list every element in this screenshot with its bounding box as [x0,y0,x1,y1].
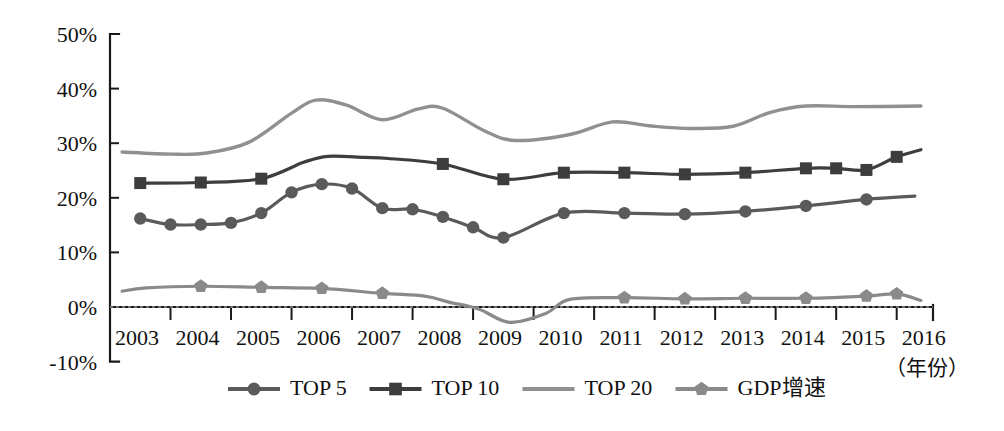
data-point-marker [346,182,358,194]
data-point-marker [406,203,418,215]
data-point-marker [618,167,630,179]
x-tick-label: 2016 [902,325,946,350]
series-top-10 [134,150,921,189]
data-point-marker [618,291,631,304]
x-tick-label: 2007 [357,325,401,350]
y-tick-label: 0% [68,295,97,320]
x-tick-label: 2011 [600,325,643,350]
legend-item-gdp增速[interactable]: GDP增速 [676,375,826,400]
data-point-marker [860,289,873,302]
legend-item-top-20[interactable]: TOP 20 [523,375,653,400]
y-tick-label: 10% [57,240,97,265]
data-point-marker [467,221,479,233]
data-point-marker [891,151,903,163]
data-point-marker [679,168,691,180]
data-point-marker [389,383,402,396]
series-markers [194,279,903,304]
data-point-marker [255,280,268,293]
x-tick-label: 2013 [720,325,764,350]
data-point-marker [739,167,751,179]
x-tick-label: 2014 [781,325,825,350]
series-top-5 [134,178,915,244]
data-point-marker [830,162,842,174]
legend-label: TOP 5 [290,375,347,400]
data-point-marker [437,158,449,170]
series-plot-area [122,100,921,323]
y-tick-label: 40% [57,77,97,102]
legend-item-top-5[interactable]: TOP 5 [228,375,347,400]
y-axis-tick-labels: -10%0%10%20%30%40%50% [49,22,97,375]
data-point-marker [225,217,237,229]
legend-item-top-10[interactable]: TOP 10 [370,375,500,400]
data-point-marker [255,173,267,185]
chart-container: -10%0%10%20%30%40%50% 200320042005200620… [0,0,1004,431]
line-chart: -10%0%10%20%30%40%50% 200320042005200620… [0,0,1004,431]
data-point-marker [247,382,260,395]
x-tick-label: 2015 [841,325,885,350]
y-tick-label: 50% [57,22,97,47]
x-tick-label: 2008 [418,325,462,350]
data-point-marker [890,287,903,300]
x-tick-label: 2010 [539,325,583,350]
data-point-marker [739,205,751,217]
x-tick-label: 2005 [236,325,280,350]
data-point-marker [195,177,207,189]
data-point-marker [376,202,388,214]
data-point-marker [800,162,812,174]
y-tick-label: -10% [49,350,97,375]
data-point-marker [437,211,449,223]
data-point-marker [134,177,146,189]
legend-label: TOP 10 [432,375,500,400]
data-point-marker [558,167,570,179]
y-tick-label: 30% [57,131,97,156]
chart-legend: TOP 5TOP 10TOP 20GDP增速 [228,375,826,400]
series-gdp增速 [122,279,921,322]
series-top-20 [122,100,921,155]
data-point-marker [558,207,570,219]
x-axis-unit-label: （年份） [885,356,969,380]
axes [110,34,933,362]
x-tick-label: 2004 [176,325,220,350]
data-point-marker [860,164,872,176]
data-point-marker [134,212,146,224]
data-point-marker [618,207,630,219]
data-point-marker [315,281,328,294]
y-tick-label: 20% [57,186,97,211]
data-point-marker [679,208,691,220]
data-point-marker [695,382,709,395]
x-tick-label: 2009 [478,325,522,350]
x-tick-label: 2003 [115,325,159,350]
series-line [122,286,921,322]
data-point-marker [739,291,752,304]
data-point-marker [678,292,691,305]
x-axis-unit-label: （年份） [885,356,969,380]
data-point-marker [255,207,267,219]
data-point-marker [497,231,509,243]
x-tick-label: 2012 [660,325,704,350]
data-point-marker [285,186,297,198]
data-point-marker [164,218,176,230]
x-axis-tick-labels: 2003200420052006200720082009201020112012… [115,325,946,350]
legend-label: TOP 20 [585,375,653,400]
data-point-marker [195,218,207,230]
data-point-marker [799,291,812,304]
data-point-marker [800,200,812,212]
data-point-marker [194,279,207,292]
data-point-marker [376,286,389,299]
legend-label: GDP增速 [738,375,826,400]
data-point-marker [860,193,872,205]
x-tick-label: 2006 [297,325,341,350]
data-point-marker [316,178,328,190]
data-point-marker [497,173,509,185]
series-line [122,100,921,155]
